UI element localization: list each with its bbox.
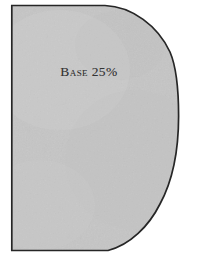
region-texture <box>0 0 202 260</box>
base-region-shape <box>0 0 202 260</box>
figure-container: Base 25% <box>0 0 202 260</box>
